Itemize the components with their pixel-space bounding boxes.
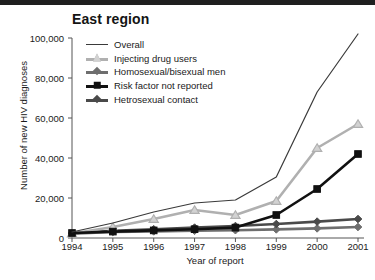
series-marker xyxy=(69,230,76,237)
legend-label: Homosexual/bisexual men xyxy=(114,66,225,77)
hiv-diagnoses-line-chart: East region Number of new HIV diagnoses … xyxy=(0,5,375,280)
series-marker xyxy=(355,151,362,158)
legend-item[interactable]: Injecting drug users xyxy=(84,52,274,66)
legend-marker-none-icon xyxy=(84,38,110,51)
legend-label: Injecting drug users xyxy=(114,53,197,64)
series-marker xyxy=(313,218,321,226)
legend-item[interactable]: Risk factor not reported xyxy=(84,79,274,93)
series-marker xyxy=(314,186,321,193)
series-marker xyxy=(110,228,117,235)
legend-label: Hetrosexual contact xyxy=(114,94,198,105)
series-marker xyxy=(354,215,362,223)
legend-marker-diamond-icon xyxy=(84,93,110,106)
legend-marker-triangle-icon xyxy=(84,52,110,65)
legend-item[interactable]: Homosexual/bisexual men xyxy=(84,65,274,79)
series-marker xyxy=(354,223,362,231)
legend-item[interactable]: Overall xyxy=(84,38,274,52)
legend-label: Risk factor not reported xyxy=(114,80,213,91)
legend-item[interactable]: Hetrosexual contact xyxy=(84,92,274,106)
legend-marker-diamond-icon xyxy=(84,65,110,78)
series-marker xyxy=(273,212,280,219)
legend-label: Overall xyxy=(114,39,144,50)
series-marker xyxy=(150,227,157,234)
legend-marker-square-icon xyxy=(84,79,110,92)
series-line xyxy=(72,124,358,234)
series-marker xyxy=(191,226,198,233)
chart-legend: OverallInjecting drug usersHomosexual/bi… xyxy=(84,38,274,106)
series-marker xyxy=(353,120,362,128)
series-marker xyxy=(272,220,280,228)
series-marker xyxy=(232,224,239,231)
